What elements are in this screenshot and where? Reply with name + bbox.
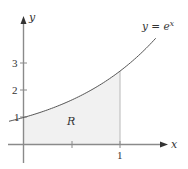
y-tick-label-2: 2 bbox=[12, 84, 18, 96]
x-tick-label-1: 1 bbox=[117, 149, 123, 161]
plot-canvas: 1 2 3 1 y x R y = ex bbox=[0, 0, 188, 169]
y-tick-label-1: 1 bbox=[14, 111, 20, 123]
figure: 1 2 3 1 y x R y = ex bbox=[0, 0, 188, 169]
y-axis-label: y bbox=[28, 11, 36, 24]
y-axis-arrow-icon bbox=[21, 16, 27, 24]
shaded-region-r bbox=[24, 71, 121, 144]
y-tick-label-3: 3 bbox=[12, 57, 18, 69]
x-axis-label: x bbox=[171, 138, 178, 151]
region-label: R bbox=[66, 115, 75, 128]
curve-label: y = ex bbox=[141, 19, 175, 32]
x-axis-arrow-icon bbox=[160, 142, 168, 148]
